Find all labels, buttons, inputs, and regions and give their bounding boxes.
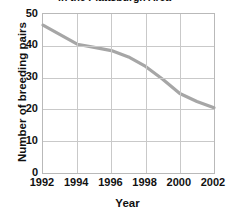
chart-figure: in the Plattsburgh Area Number of breedi… xyxy=(0,0,229,215)
gridline-vertical xyxy=(180,14,181,173)
gridline-horizontal xyxy=(43,46,214,47)
y-tick-label: 40 xyxy=(4,39,38,50)
y-tick-label: 50 xyxy=(4,8,38,19)
gridline-vertical xyxy=(146,14,147,173)
gridline-vertical xyxy=(77,14,78,173)
gridline-vertical xyxy=(111,14,112,173)
x-axis-label: Year xyxy=(42,197,213,209)
plot-area xyxy=(42,13,215,174)
gridline-horizontal xyxy=(43,78,214,79)
x-tick-label: 2002 xyxy=(191,176,229,188)
gridline-horizontal xyxy=(43,109,214,110)
x-axis-ticks: 199219941996199820002002 xyxy=(42,176,213,190)
y-tick-label: 20 xyxy=(4,103,38,114)
y-tick-label: 10 xyxy=(4,135,38,146)
data-series-line xyxy=(43,25,214,108)
y-tick-label: 30 xyxy=(4,71,38,82)
chart-title: in the Plattsburgh Area xyxy=(0,0,229,3)
data-line-svg xyxy=(43,14,214,173)
gridline-horizontal xyxy=(43,141,214,142)
y-axis-ticks: 01020304050 xyxy=(0,13,38,172)
